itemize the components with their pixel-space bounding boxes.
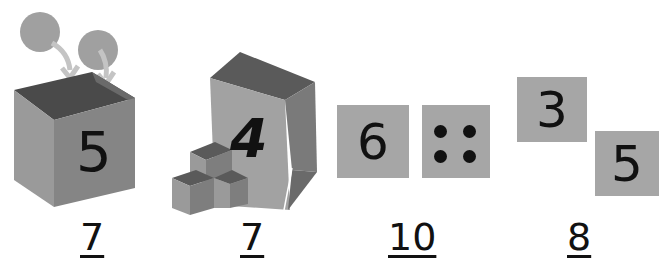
dot bbox=[463, 125, 476, 138]
number-card-5: 5 bbox=[595, 131, 659, 196]
number-card-3: 3 bbox=[517, 77, 587, 142]
answer-box: 7 bbox=[80, 218, 104, 256]
bag-number: 4 bbox=[230, 112, 268, 166]
answer-cards-dots: 10 bbox=[388, 218, 436, 256]
dot bbox=[434, 150, 447, 163]
number-card-6: 6 bbox=[337, 105, 409, 178]
dot-card bbox=[422, 105, 490, 178]
card-number: 5 bbox=[611, 139, 643, 189]
answer-two-cards: 8 bbox=[567, 218, 591, 256]
card-number: 6 bbox=[357, 117, 389, 167]
box-number: 5 bbox=[76, 124, 112, 180]
dot bbox=[463, 150, 476, 163]
card-number: 3 bbox=[536, 85, 568, 135]
answer-bag: 7 bbox=[240, 218, 264, 256]
dot bbox=[434, 125, 447, 138]
